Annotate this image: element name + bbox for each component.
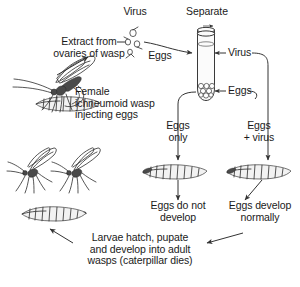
two-adult-wasps-illustration <box>7 148 100 193</box>
label-branch-eggs-plus-virus: Eggs + virus <box>228 120 290 143</box>
test-tube-illustration <box>197 27 214 100</box>
caterpillar-eggs-only-illustration <box>143 165 207 179</box>
label-tube-virus: Virus <box>228 47 268 59</box>
label-branch-eggs-only: Eggs only <box>152 120 204 143</box>
label-eggs-extract: Eggs <box>140 50 180 62</box>
label-female-wasp: Female ichneumoid wasp injecting eggs <box>75 86 170 121</box>
label-outcome-eggs-do-not-develop: Eggs do not develop <box>132 200 224 223</box>
wasp-virus-diagram: Extract from ovaries of wasp Virus Eggs … <box>0 0 300 287</box>
caterpillar-eggs-plus-virus-illustration <box>227 165 291 179</box>
label-extract-from-ovaries: Extract from ovaries of wasp <box>46 36 132 59</box>
label-virus-top: Virus <box>113 6 157 18</box>
label-larvae-hatch-pupate: Larvae hatch, pupate and develop into ad… <box>76 232 204 267</box>
label-tube-eggs: Eggs <box>228 85 268 97</box>
left-larva-illustration <box>22 207 86 221</box>
label-separate: Separate <box>176 6 238 18</box>
label-outcome-eggs-develop-normally: Eggs develop normally <box>220 200 300 223</box>
